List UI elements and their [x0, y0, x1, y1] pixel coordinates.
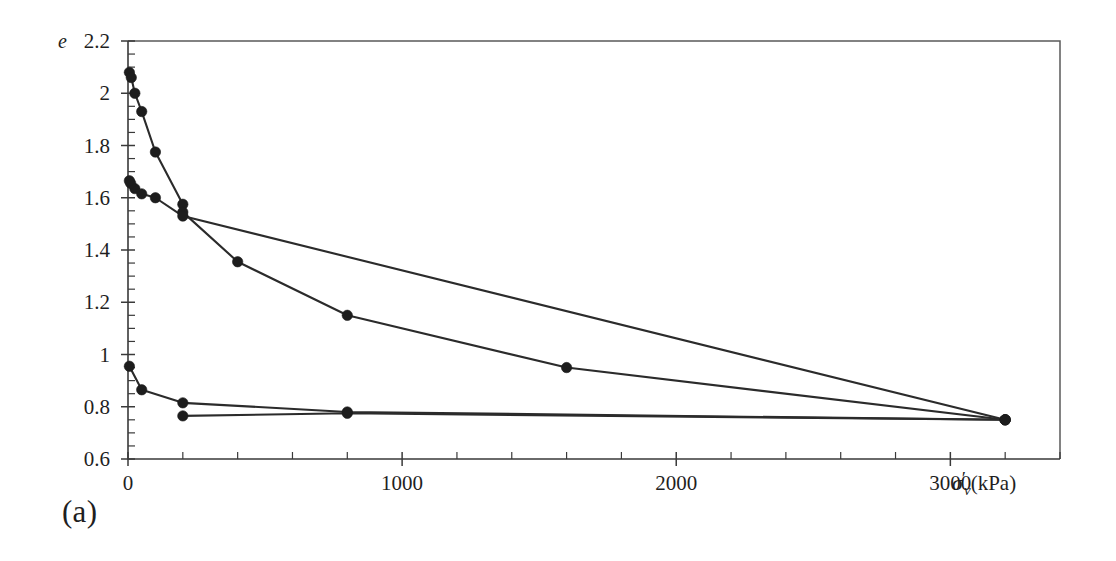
subscript-v: v: [964, 482, 971, 498]
data-point-marker: [342, 310, 352, 320]
plot-axes: [128, 41, 1060, 459]
data-point-marker: [150, 147, 160, 157]
data-markers-group: [124, 67, 1010, 425]
panel-label: (a): [62, 494, 97, 530]
y-tick-label: 1: [40, 344, 110, 365]
data-point-marker: [232, 257, 242, 267]
data-point-marker: [137, 106, 147, 116]
figure-root: e 0.60.811.21.41.61.822.2 0100020003000 …: [0, 0, 1116, 561]
data-point-marker: [342, 408, 352, 418]
series-specimen-2-loading: [129, 366, 1005, 420]
data-point-marker: [137, 385, 147, 395]
x-axis-units: (kPa): [971, 471, 1017, 495]
data-point-marker: [126, 72, 136, 82]
x-axis-label: σ′v(kPa): [952, 468, 1016, 499]
data-point-marker: [1000, 415, 1010, 425]
data-point-marker: [124, 176, 134, 186]
x-tick-label: 2000: [655, 473, 697, 494]
data-point-marker: [561, 362, 571, 372]
y-tick-label: 0.8: [40, 396, 110, 417]
y-tick-label: 2: [40, 83, 110, 104]
y-tick-label: 1.8: [40, 135, 110, 156]
y-tick-label: 1.4: [40, 240, 110, 261]
data-point-marker: [124, 361, 134, 371]
data-point-marker: [178, 398, 188, 408]
data-point-marker: [130, 88, 140, 98]
y-tick-label: 1.6: [40, 187, 110, 208]
series-specimen-1-unloading: [129, 181, 1005, 420]
x-tick-label: 0: [123, 473, 134, 494]
plot-frame-outline: [128, 41, 1060, 459]
data-point-marker: [150, 193, 160, 203]
y-tick-label: 1.2: [40, 292, 110, 313]
y-tick-label: 2.2: [40, 31, 110, 52]
y-tick-label: 0.6: [40, 449, 110, 470]
axis-ticks: [121, 41, 1060, 466]
data-point-marker: [178, 211, 188, 221]
x-tick-label: 1000: [381, 473, 423, 494]
plot-frame: [128, 41, 1060, 459]
data-point-marker: [178, 411, 188, 421]
